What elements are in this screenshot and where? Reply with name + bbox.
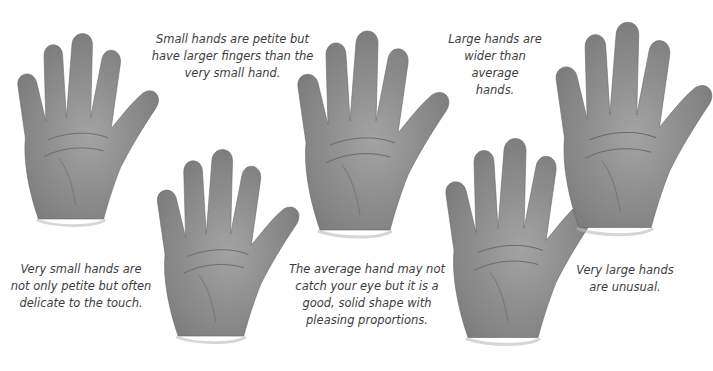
very-small-hand-caption: Very small hands are not only petite but… (0, 261, 162, 312)
large-hand-caption: Large hands are wider than average hands… (440, 31, 550, 99)
small-hand-image (150, 132, 300, 362)
very-large-hand-image (548, 12, 713, 247)
very-large-hand-caption: Very large hands are unusual. (565, 262, 685, 296)
very-small-hand-image (10, 28, 160, 233)
average-hand-image (290, 20, 450, 250)
average-hand-caption: The average hand may not catch your eye … (282, 261, 452, 329)
